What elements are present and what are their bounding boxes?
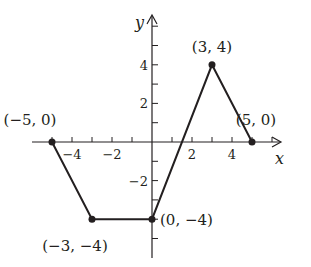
data-point (209, 61, 216, 68)
x-axis-label: x (275, 149, 284, 168)
y-axis-label: y (134, 13, 145, 32)
axes (32, 15, 281, 258)
x-tick-label: −4 (62, 147, 81, 162)
y-tick-label: 2 (140, 96, 148, 111)
point-label: (−3, −4) (42, 237, 107, 255)
point-label: (−5, 0) (4, 111, 57, 129)
y-tick-label: 4 (140, 58, 148, 73)
x-tick-label: −2 (102, 147, 121, 162)
data-point (149, 216, 156, 223)
point-label: (0, −4) (160, 211, 213, 229)
data-point (89, 216, 96, 223)
y-tick-label: −2 (129, 174, 148, 189)
point-label: (3, 4) (192, 38, 232, 56)
data-point (249, 139, 256, 146)
data-point (49, 139, 56, 146)
chart: −4−22442−2 (−5, 0)(−3, −4)(0, −4)(3, 4)(… (0, 0, 311, 267)
point-label: (5, 0) (236, 111, 276, 129)
x-tick-label: 2 (188, 147, 196, 162)
x-tick-label: 4 (228, 147, 236, 162)
